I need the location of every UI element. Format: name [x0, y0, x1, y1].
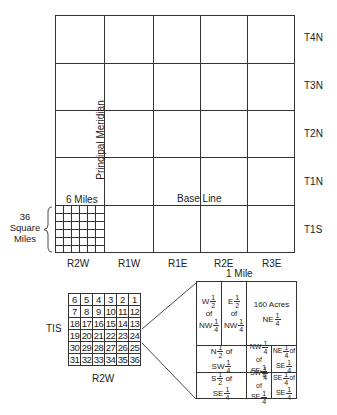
section-cell: 25: [129, 342, 141, 354]
section-cell: 10: [105, 306, 117, 318]
section-cell: 36: [129, 354, 141, 366]
section-cell: 5: [81, 294, 93, 306]
section-detail: W12 of NW14 E12 of NW14 160 Acres NE14 N…: [196, 281, 297, 399]
section-cell: 35: [117, 354, 129, 366]
section-numbers-table: 654321 789101112 181716151413 1920212223…: [68, 293, 141, 366]
township-column-label: R2W: [92, 373, 114, 384]
section-cell: 12: [129, 306, 141, 318]
brace-icon: [44, 207, 52, 252]
section-cell: 18: [69, 318, 81, 330]
parcel-ne-se: NE14of SE14: [272, 346, 296, 373]
section-cell: 14: [117, 318, 129, 330]
section-cell: 24: [129, 330, 141, 342]
section-cell: 29: [81, 342, 93, 354]
section-cell: 31: [69, 354, 81, 366]
section-cell: 21: [93, 330, 105, 342]
section-cell: 33: [93, 354, 105, 366]
section-cell: 15: [105, 318, 117, 330]
section-cell: 11: [117, 306, 129, 318]
parcel-n-half-sw: N12 of SW14: [197, 346, 247, 373]
parcel-e-half-nw: E12 of NW14: [222, 282, 247, 346]
section-cell: 1: [129, 294, 141, 306]
one-mile-label: 1 Mile: [226, 268, 253, 279]
section-cell: 3: [105, 294, 117, 306]
section-cell: 19: [69, 330, 81, 342]
section-cell: 20: [81, 330, 93, 342]
section-cell: 30: [69, 342, 81, 354]
section-cell: 26: [117, 342, 129, 354]
section-cell: 32: [81, 354, 93, 366]
section-cell: 23: [117, 330, 129, 342]
section-cell: 27: [105, 342, 117, 354]
section-cell: 34: [105, 354, 117, 366]
section-cell: 13: [129, 318, 141, 330]
parcel-s-half-se: S12 of SE14: [197, 373, 247, 398]
section-cell: 22: [105, 330, 117, 342]
section-cell: 17: [81, 318, 93, 330]
parcel-ne-quarter: 160 Acres NE14: [247, 282, 296, 346]
section-cell: 9: [93, 306, 105, 318]
section-cell: 4: [93, 294, 105, 306]
section-cell: 6: [69, 294, 81, 306]
parcel-w-half-nw: W12 of NW14: [197, 282, 222, 346]
section-cell: 2: [117, 294, 129, 306]
section-cell: 28: [93, 342, 105, 354]
section-cell: 8: [81, 306, 93, 318]
township-row-label: TIS: [46, 323, 62, 334]
parcel-se-se: SE14of SE14: [272, 373, 296, 398]
section-cell: 16: [93, 318, 105, 330]
section-cell: 7: [69, 306, 81, 318]
parcel-sw-se: SW14of SE14: [247, 373, 272, 398]
